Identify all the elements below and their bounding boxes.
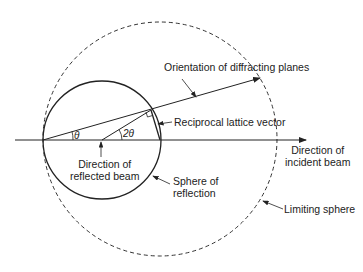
label-reciprocal-vector: Reciprocal lattice vector (174, 116, 285, 128)
label-planes: Orientation of diffracting planes (164, 61, 309, 73)
label-limiting-sphere: Limiting sphere (284, 203, 355, 215)
label-theta: θ (74, 130, 79, 142)
ewald-diagram (0, 0, 363, 272)
label-reflected-beam: Direction of reflected beam (70, 158, 139, 182)
label-two-theta: 2θ (123, 128, 134, 140)
label-incident-beam: Direction of incident beam (285, 144, 350, 168)
label-sphere-of-reflection: Sphere of reflection (173, 175, 219, 199)
